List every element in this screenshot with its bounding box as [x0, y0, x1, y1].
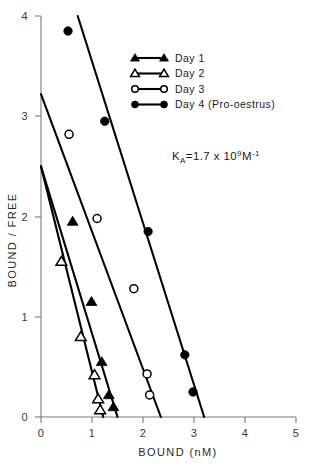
marker-filled-triangle [67, 216, 78, 225]
marker-open-triangle [75, 332, 86, 341]
y-tick-label-1: 1 [22, 311, 28, 323]
x-tick-group [41, 417, 296, 423]
x-tick-label-1: 1 [89, 427, 95, 439]
series-2 [41, 166, 106, 417]
legend-item-1[interactable]: Day 1 [131, 52, 205, 64]
marker-filled-triangle [96, 357, 107, 366]
ka-unit-exponent: -1 [252, 149, 260, 158]
marker-open-circle [130, 285, 138, 293]
chart-legend: Day 1Day 2Day 3Day 4 (Pro-oestrus) [131, 52, 276, 111]
x-tick-label-3: 3 [191, 427, 197, 439]
ka-annotation: KA=1.7 x 109M-1 [172, 149, 260, 165]
chart-page: 0 1 2 3 4 0 1 2 3 4 5 BOUND (nM) BOUND /… [0, 0, 320, 469]
y-tick-group [35, 16, 41, 417]
marker-filled-triangle [103, 390, 114, 399]
x-tick-label-5: 5 [293, 427, 299, 439]
series-3 [41, 94, 161, 417]
marker-filled-circle [101, 117, 109, 125]
series-1 [41, 166, 119, 417]
x-tick-label-2: 2 [140, 427, 146, 439]
y-tick-label-2: 2 [22, 211, 28, 223]
legend-item-4[interactable]: Day 4 (Pro-oestrus) [132, 98, 276, 110]
marker-open-circle [93, 215, 101, 223]
marker-filled-circle [189, 388, 197, 396]
marker-open-triangle [95, 405, 106, 414]
y-tick-label-3: 3 [22, 110, 28, 122]
ka-prefix: K [172, 150, 180, 162]
legend-label: Day 4 (Pro-oestrus) [175, 98, 275, 110]
fit-line [41, 166, 103, 417]
x-axis-title: BOUND (nM) [138, 446, 217, 458]
ka-mid: =1.7 x 10 [186, 150, 237, 162]
marker-open-circle [146, 391, 154, 399]
marker-filled-triangle [108, 402, 119, 411]
x-tick-label-4: 4 [242, 427, 248, 439]
legend-item-3[interactable]: Day 3 [132, 83, 205, 95]
y-tick-labels: 0 1 2 3 4 [22, 10, 28, 423]
marker-filled-circle [161, 101, 168, 108]
y-axis-title: BOUND / FREE [6, 192, 18, 287]
marker-open-circle [161, 86, 168, 93]
fit-line [41, 94, 161, 417]
x-tick-labels: 0 1 2 3 4 5 [38, 427, 299, 439]
x-tick-label-0: 0 [38, 427, 44, 439]
legend-label: Day 3 [175, 83, 205, 95]
scatchard-plot: 0 1 2 3 4 0 1 2 3 4 5 BOUND (nM) BOUND /… [0, 0, 320, 469]
marker-filled-triangle [86, 297, 97, 306]
marker-filled-circle [144, 227, 152, 235]
marker-filled-circle [132, 101, 139, 108]
marker-open-circle [65, 130, 73, 138]
marker-open-triangle [93, 394, 104, 403]
marker-open-circle [143, 370, 151, 378]
legend-label: Day 1 [175, 52, 205, 64]
legend-label: Day 2 [175, 67, 205, 79]
y-tick-label-0: 0 [22, 411, 28, 423]
marker-open-circle [132, 86, 139, 93]
marker-filled-circle [64, 27, 72, 35]
fit-line [41, 166, 118, 417]
svg-text:KA=1.7 x 109M-1: KA=1.7 x 109M-1 [172, 149, 260, 165]
marker-filled-circle [181, 351, 189, 359]
legend-item-2[interactable]: Day 2 [131, 67, 205, 79]
ka-unit: M [242, 150, 252, 162]
y-tick-label-4: 4 [22, 10, 28, 22]
